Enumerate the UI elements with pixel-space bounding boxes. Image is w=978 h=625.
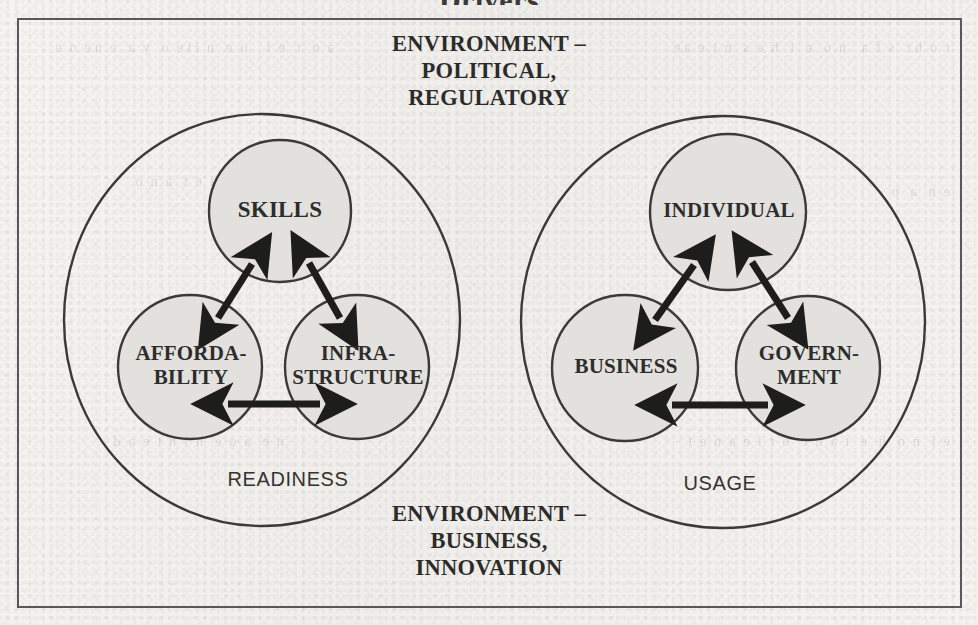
node-label-government[interactable]: GOVERN- MENT <box>733 341 885 389</box>
ring-label-readiness: READINESS <box>218 468 358 491</box>
ring-label-usage: USAGE <box>672 472 768 495</box>
environment-bottom-label: ENVIRONMENT – BUSINESS, INNOVATION <box>309 500 669 581</box>
node-label-affordability[interactable]: AFFORDA- BILITY <box>110 341 272 389</box>
figure-title: Drivers <box>0 0 978 5</box>
node-label-business[interactable]: BUSINESS <box>548 354 704 378</box>
node-label-skills[interactable]: SKILLS <box>200 197 360 222</box>
node-label-individual[interactable]: INDIVIDUAL <box>640 198 818 222</box>
node-label-infrastructure[interactable]: INFRA- STRUCTURE <box>279 341 437 389</box>
environment-top-label: ENVIRONMENT – POLITICAL, REGULATORY <box>309 30 669 111</box>
